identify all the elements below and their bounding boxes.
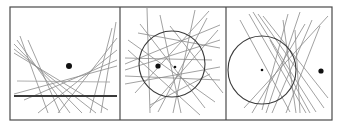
panel-dividers xyxy=(120,7,226,120)
tangent-line xyxy=(263,16,328,98)
conic-envelope-figure xyxy=(0,0,340,129)
guide-line xyxy=(17,81,110,82)
panel-parabola xyxy=(14,22,117,113)
tangent-line xyxy=(101,22,116,113)
focus-point xyxy=(318,68,323,73)
tangent-line xyxy=(272,20,312,113)
tangent-lines xyxy=(125,8,223,115)
figure-canvas xyxy=(0,0,340,129)
panel-ellipse xyxy=(125,8,223,115)
tangent-line xyxy=(58,38,117,113)
tangent-line xyxy=(14,66,117,94)
tangent-lines xyxy=(14,22,117,113)
tangent-line xyxy=(138,33,220,48)
focus-point xyxy=(261,69,264,72)
focus-point xyxy=(174,66,177,69)
panel-hyperbola xyxy=(228,12,328,113)
tangent-line xyxy=(17,40,70,113)
focus-point xyxy=(66,63,72,69)
tangent-lines xyxy=(240,12,328,113)
tangent-line xyxy=(147,8,150,113)
focus-point xyxy=(155,63,160,68)
tangent-line xyxy=(258,14,324,108)
tangent-line xyxy=(249,14,306,113)
